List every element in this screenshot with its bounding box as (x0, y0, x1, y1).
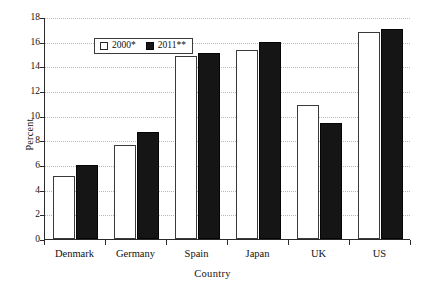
y-tick-label: 18 (0, 13, 40, 23)
x-category-label-japan: Japan (246, 248, 270, 259)
bar-denmark-2000 (53, 176, 75, 239)
y-tick-label: 6 (0, 161, 40, 171)
legend-entry-2011: 2011** (146, 41, 186, 51)
legend-swatch-icon-2000 (100, 42, 108, 50)
legend-swatch-icon-2011 (146, 42, 154, 50)
x-tick-mark (349, 240, 350, 245)
gridline (45, 117, 410, 118)
x-category-label-germany: Germany (116, 248, 155, 259)
x-category-label-us: US (373, 248, 386, 259)
y-tick-label: 4 (0, 186, 40, 196)
x-tick-mark (105, 240, 106, 245)
legend-entry-2000: 2000* (100, 41, 136, 51)
plot-area: 2000* 2011** (44, 18, 410, 240)
x-tick-mark (44, 240, 45, 245)
x-tick-mark (227, 240, 228, 245)
gridline (45, 18, 410, 19)
y-tick-label: 14 (0, 63, 40, 73)
x-tick-mark (288, 240, 289, 245)
bar-japan-2011 (259, 42, 281, 239)
x-tick-mark (410, 240, 411, 245)
x-category-label-uk: UK (311, 248, 326, 259)
bar-chart: Percent 024681012141618 2000* 2011** Den… (0, 0, 425, 292)
x-category-label-denmark: Denmark (55, 248, 94, 259)
legend-label-2000: 2000* (112, 41, 136, 51)
y-tick-label: 2 (0, 211, 40, 221)
bar-spain-2011 (198, 53, 220, 239)
gridline (45, 67, 410, 68)
gridline (45, 141, 410, 142)
x-category-label-spain: Spain (185, 248, 209, 259)
bar-us-2000 (358, 32, 380, 239)
legend-label-2011: 2011** (158, 41, 186, 51)
bar-germany-2000 (114, 145, 136, 239)
bar-spain-2000 (175, 56, 197, 239)
x-axis-title: Country (0, 268, 425, 279)
gridline (45, 191, 410, 192)
bar-germany-2011 (137, 132, 159, 239)
bar-uk-2000 (297, 105, 319, 239)
bar-uk-2011 (320, 123, 342, 239)
gridline (45, 215, 410, 216)
gridline (45, 92, 410, 93)
y-tick-label: 0 (0, 235, 40, 245)
y-tick-label: 10 (0, 112, 40, 122)
bar-us-2011 (381, 29, 403, 239)
x-tick-mark (166, 240, 167, 245)
y-tick-label: 8 (0, 137, 40, 147)
bar-denmark-2011 (76, 165, 98, 239)
gridline (45, 166, 410, 167)
y-tick-label: 16 (0, 38, 40, 48)
legend: 2000* 2011** (94, 38, 193, 54)
y-tick-label: 12 (0, 87, 40, 97)
bar-japan-2000 (236, 50, 258, 239)
